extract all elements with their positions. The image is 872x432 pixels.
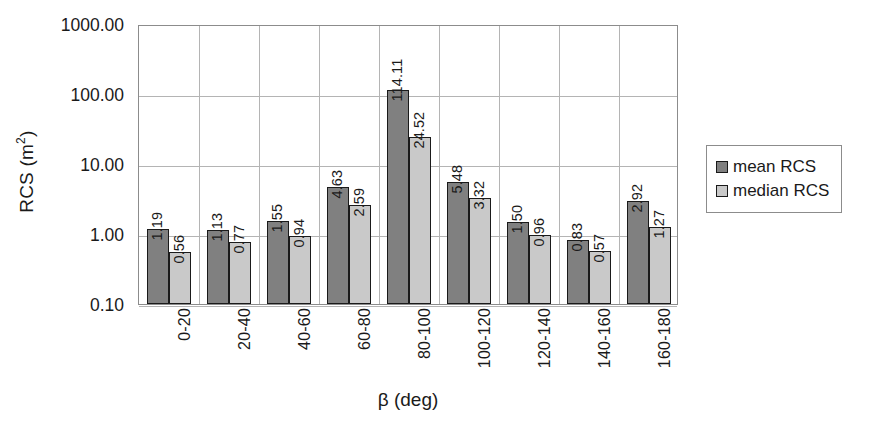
bar-mean[interactable] xyxy=(627,201,649,304)
bar-group: 114.1124.52 xyxy=(379,26,439,304)
x-axis-tick-label: 60-80 xyxy=(356,308,374,350)
x-axis-title: β (deg) xyxy=(138,389,678,411)
x-axis-tick-label: 40-60 xyxy=(296,308,314,350)
y-axis-tick-label: 100.00 xyxy=(70,85,124,106)
bar-value-label: 0.83 xyxy=(570,223,585,252)
bar-median[interactable] xyxy=(469,198,491,304)
bar-group: 1.190.56 xyxy=(139,26,199,304)
bar-value-label: 0.94 xyxy=(292,219,307,248)
bar-group: 1.550.94 xyxy=(259,26,319,304)
bar-value-label: 2.59 xyxy=(352,188,367,217)
bar-group: 1.500.96 xyxy=(499,26,559,304)
bar-value-label: 4.63 xyxy=(330,170,345,199)
bar-value-label: 0.56 xyxy=(172,235,187,264)
x-axis-tick-label: 120-140 xyxy=(536,308,554,368)
bar-value-label: 114.11 xyxy=(390,59,405,102)
bar-value-label: 3.32 xyxy=(472,180,487,209)
bar-mean[interactable] xyxy=(447,182,469,304)
x-axis-tick-label: 160-180 xyxy=(656,308,674,368)
bar-value-label: 24.52 xyxy=(412,111,427,148)
y-axis-tick-label: 0.10 xyxy=(90,295,124,316)
bar-value-label: 1.19 xyxy=(150,212,165,241)
bar-value-label: 5.48 xyxy=(450,165,465,194)
legend-entry[interactable]: mean RCS xyxy=(716,155,829,179)
bar-value-label: 2.92 xyxy=(630,184,645,213)
bar-value-label: 1.13 xyxy=(210,213,225,242)
chart-legend: mean RCSmedian RCS xyxy=(706,145,842,213)
x-axis-tick-label: 140-160 xyxy=(596,308,614,368)
bar-group: 2.921.27 xyxy=(619,26,679,304)
bar-value-label: 0.77 xyxy=(232,225,247,254)
x-axis-tick-label: 100-120 xyxy=(476,308,494,368)
bar-mean[interactable] xyxy=(267,221,289,304)
y-axis-tick-label: 1.00 xyxy=(90,225,124,246)
plot-area: 1.190.561.130.771.550.944.632.59114.1124… xyxy=(138,25,678,305)
rcs-bar-chart: RCS (m2) 1000.00100.0010.001.000.10 1.19… xyxy=(0,0,872,432)
bar-median[interactable] xyxy=(349,205,371,304)
y-axis-tick-label: 1000.00 xyxy=(61,15,124,36)
bar-value-label: 0.57 xyxy=(592,234,607,263)
horizontal-gridline xyxy=(139,306,677,307)
bar-group: 4.632.59 xyxy=(319,26,379,304)
legend-label: mean RCS xyxy=(733,157,816,177)
y-axis-tick-label: 10.00 xyxy=(80,155,124,176)
bar-group: 5.483.32 xyxy=(439,26,499,304)
x-axis-tick-label: 20-40 xyxy=(236,308,254,350)
x-axis-tick-labels: 0-2020-4040-6060-8080-100100-120120-1401… xyxy=(138,308,678,388)
bar-group: 1.130.77 xyxy=(199,26,259,304)
legend-swatch-mean xyxy=(716,161,728,173)
bar-mean[interactable] xyxy=(327,187,349,304)
bar-mean[interactable] xyxy=(387,90,409,304)
y-axis-tick-labels: 1000.00100.0010.001.000.10 xyxy=(26,25,132,305)
legend-label: median RCS xyxy=(733,181,829,201)
bar-value-label: 1.50 xyxy=(510,205,525,234)
bar-value-label: 1.55 xyxy=(270,204,285,233)
x-axis-tick-label: 0-20 xyxy=(176,308,194,341)
bar-group: 0.830.57 xyxy=(559,26,619,304)
x-axis-tick-label: 80-100 xyxy=(416,308,434,359)
legend-swatch-median xyxy=(716,185,728,197)
bar-mean[interactable] xyxy=(507,222,529,304)
bar-value-label: 0.96 xyxy=(532,218,547,247)
legend-entry[interactable]: median RCS xyxy=(716,179,829,203)
bar-value-label: 1.27 xyxy=(652,210,667,239)
bar-median[interactable] xyxy=(409,137,431,304)
